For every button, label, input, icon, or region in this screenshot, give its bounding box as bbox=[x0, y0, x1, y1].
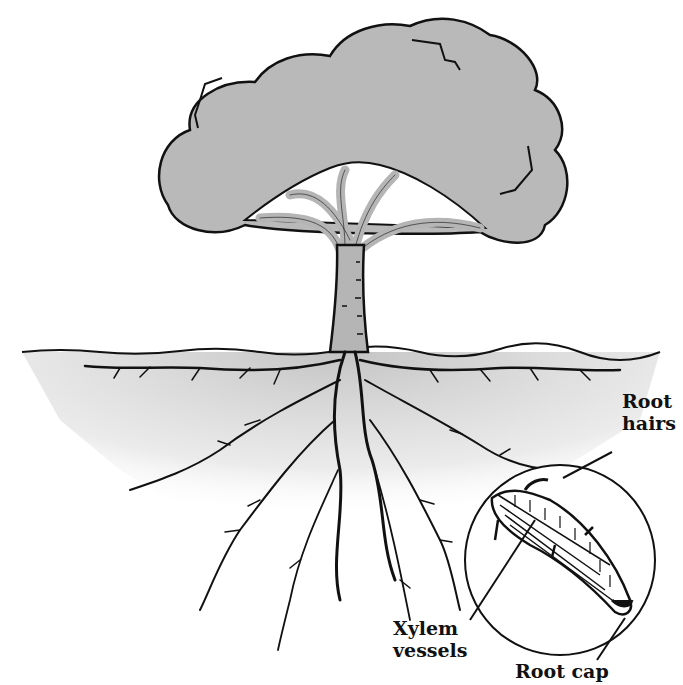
label-root-cap-text: Root cap bbox=[515, 660, 609, 682]
tree-canopy bbox=[159, 19, 567, 250]
label-xylem-line1: Xylem bbox=[393, 617, 468, 639]
label-root-hairs-line2: hairs bbox=[622, 412, 676, 434]
label-xylem-vessels: Xylem vessels bbox=[393, 617, 468, 661]
tree-trunk bbox=[330, 245, 368, 352]
label-root-cap: Root cap bbox=[515, 660, 609, 682]
diagram-illustration bbox=[0, 0, 683, 685]
label-xylem-line2: vessels bbox=[393, 639, 468, 661]
label-root-hairs-line1: Root bbox=[622, 390, 676, 412]
label-root-hairs: Root hairs bbox=[622, 390, 676, 434]
tree-root-diagram: Root hairs Xylem vessels Root cap bbox=[0, 0, 683, 685]
